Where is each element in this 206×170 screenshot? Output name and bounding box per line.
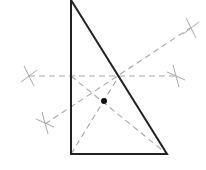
diagram-canvas: [0, 0, 206, 170]
right-triangle: [71, 0, 167, 154]
point-dot: [101, 98, 107, 104]
median-from-bottom-left: [71, 76, 119, 154]
construction-lines: [29, 28, 190, 154]
arc-mark-bottom-left: [36, 112, 54, 134]
centroid-point: [101, 98, 107, 104]
arc-mark-top-right: [183, 18, 199, 38]
geometry-figure: [0, 0, 206, 170]
line-to-bottom-right: [71, 76, 167, 154]
triangle-outline: [71, 0, 167, 154]
